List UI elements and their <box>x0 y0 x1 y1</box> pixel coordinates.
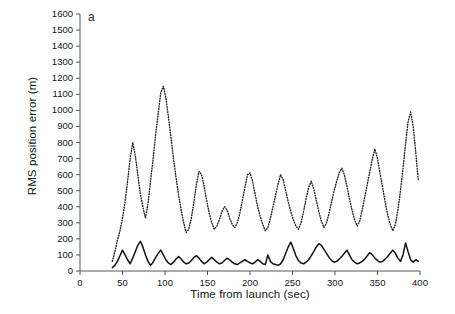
y-tick-label: 100 <box>57 249 73 260</box>
y-axis-ticks: 0100200300400500600700800900100011001200… <box>52 8 80 276</box>
y-tick-label: 400 <box>57 201 73 212</box>
x-tick-label: 200 <box>242 277 258 288</box>
y-tick-label: 500 <box>57 185 73 196</box>
x-tick-label: 250 <box>285 277 301 288</box>
x-tick-label: 50 <box>117 277 128 288</box>
y-tick-label: 700 <box>57 153 73 164</box>
y-tick-label: 1100 <box>53 88 73 99</box>
x-tick-label: 0 <box>77 277 82 288</box>
data-series-group <box>112 86 418 268</box>
y-tick-label: 300 <box>57 217 73 228</box>
y-tick-label: 600 <box>57 169 73 180</box>
y-tick-label: 900 <box>57 120 73 131</box>
y-tick-label: 1000 <box>52 104 73 115</box>
x-axis-ticks: 050100150200250300350400 <box>77 271 428 288</box>
x-tick-label: 400 <box>412 277 428 288</box>
plot-area: 0100200300400500600700800900100011001200… <box>0 0 455 314</box>
y-tick-label: 800 <box>57 137 73 148</box>
y-tick-label: 1600 <box>52 8 73 19</box>
y-tick-label: 200 <box>57 233 73 244</box>
y-tick-label: 1400 <box>52 40 73 51</box>
y-tick-label: 0 <box>68 265 73 276</box>
series-dotted-series <box>112 86 418 261</box>
x-tick-label: 100 <box>157 277 173 288</box>
x-tick-label: 150 <box>200 277 216 288</box>
y-tick-label: 1200 <box>52 72 73 83</box>
series-solid-series <box>112 241 418 268</box>
x-tick-label: 350 <box>370 277 386 288</box>
y-tick-label: 1500 <box>52 24 73 35</box>
x-tick-label: 300 <box>327 277 343 288</box>
chart-figure: RMS position error (m) Time from launch … <box>0 0 455 314</box>
y-tick-label: 1300 <box>52 56 73 67</box>
